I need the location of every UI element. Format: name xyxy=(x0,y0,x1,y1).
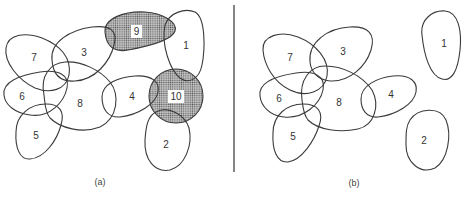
label-8: 8 xyxy=(336,97,342,108)
panel-a: 1 2 3 4 5 6 7 8 9 10 (a) xyxy=(4,11,204,187)
region-7 xyxy=(263,34,327,93)
caption-a: (a) xyxy=(95,177,106,187)
label-5: 5 xyxy=(290,131,296,142)
label-8: 8 xyxy=(77,98,83,109)
label-5: 5 xyxy=(33,130,39,141)
label-2: 2 xyxy=(421,135,427,146)
label-2: 2 xyxy=(163,139,169,150)
label-7: 7 xyxy=(31,52,37,63)
region-5 xyxy=(16,104,62,159)
label-6: 6 xyxy=(276,93,282,104)
label-3: 3 xyxy=(81,47,87,58)
panel-b: 1 2 3 4 5 6 7 8 (b) xyxy=(260,11,461,188)
label-10: 10 xyxy=(170,91,182,102)
region-2 xyxy=(406,110,449,170)
caption-b: (b) xyxy=(349,178,360,188)
label-6: 6 xyxy=(19,91,25,102)
label-4: 4 xyxy=(388,89,394,100)
label-4: 4 xyxy=(129,91,135,102)
label-9: 9 xyxy=(134,26,140,37)
region-8 xyxy=(43,62,116,130)
label-7: 7 xyxy=(287,52,293,63)
label-1: 1 xyxy=(183,40,189,51)
region-6 xyxy=(260,72,324,117)
region-6 xyxy=(4,71,68,115)
hypergraph-diagram: 1 2 3 4 5 6 7 8 9 10 (a) 1 2 3 xyxy=(0,0,462,206)
region-5 xyxy=(273,104,321,162)
label-3: 3 xyxy=(340,46,346,57)
label-1: 1 xyxy=(441,38,447,49)
